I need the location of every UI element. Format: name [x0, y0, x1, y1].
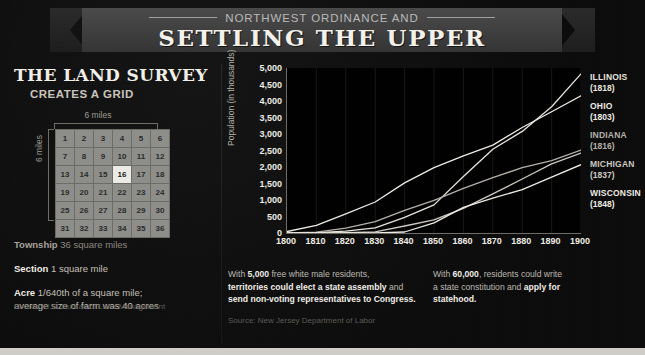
land-survey-panel: THE LAND SURVEY CREATES A GRID 6 miles 6…: [0, 58, 222, 355]
grid-cell-7: 7: [56, 148, 75, 166]
grid-cell-14: 14: [75, 166, 94, 184]
grid-row: 123456: [56, 130, 170, 148]
x-tick-1840: 1840: [394, 236, 414, 246]
grid-cell-34: 34: [113, 220, 132, 238]
grid-cell-21: 21: [94, 184, 113, 202]
grid-cell-1: 1: [56, 130, 75, 148]
chart-legend: ILLINOIS(1818)OHIO(1803)INDIANA(1816)MIC…: [590, 72, 645, 217]
x-tick-1900: 1900: [570, 236, 590, 246]
x-axis-ticks: 1800181018201830184018501860187018801890…: [286, 236, 582, 252]
x-tick-1830: 1830: [364, 236, 384, 246]
grid-cell-11: 11: [132, 148, 151, 166]
x-tick-1810: 1810: [305, 236, 325, 246]
legend-item-wisconsin[interactable]: WISCONSIN(1848): [590, 188, 645, 210]
grid-cell-33: 33: [94, 220, 113, 238]
banner-kicker: NORTHWEST ORDINANCE AND: [82, 12, 562, 24]
y-tick-1000: 1,000: [259, 195, 282, 205]
grid-cell-29: 29: [132, 202, 151, 220]
fact-section: Section 1 square mile: [14, 262, 214, 275]
x-tick-1870: 1870: [482, 236, 502, 246]
legend-year: (1803): [590, 112, 645, 123]
township-grid: 6 miles 6 miles 123456789101112131415161…: [40, 110, 170, 222]
note2-line2: a state constitution and: [433, 282, 524, 292]
note1-bold1: territories could elect a state assembly: [228, 282, 387, 292]
population-chart: Population (in thousands) 05001,0001,500…: [228, 60, 645, 260]
grid-cell-15: 15: [94, 166, 113, 184]
note-60000-residents: With 60,000, residents could write a sta…: [433, 268, 618, 306]
grid-cell-31: 31: [56, 220, 75, 238]
legend-year: (1837): [590, 170, 645, 181]
x-tick-1890: 1890: [541, 236, 561, 246]
legend-item-indiana[interactable]: INDIANA(1816): [590, 130, 645, 152]
legend-name: MICHIGAN: [590, 159, 645, 170]
y-axis-label: Population (in thousands): [226, 50, 236, 146]
x-tick-1850: 1850: [423, 236, 443, 246]
grid-row: 789101112: [56, 148, 170, 166]
legend-name: WISCONSIN: [590, 188, 645, 199]
legend-year: (1818): [590, 83, 645, 94]
grid-row: 313233343536: [56, 220, 170, 238]
grid-row: 252627282930: [56, 202, 170, 220]
y-tick-4000: 4,000: [259, 96, 282, 106]
fact-section-term: Section: [14, 263, 48, 274]
grid-cell-4: 4: [113, 130, 132, 148]
legend-name: ILLINOIS: [590, 72, 645, 83]
grid-cell-9: 9: [94, 148, 113, 166]
left-source-text: Source: U.S. Bureau of Land Management: [14, 302, 165, 311]
y-tick-4500: 4,500: [259, 80, 282, 90]
grid-side-measure-icon: [48, 129, 54, 221]
y-tick-2500: 2,500: [259, 146, 282, 156]
legend-item-ohio[interactable]: OHIO(1803): [590, 101, 645, 123]
x-tick-1860: 1860: [452, 236, 472, 246]
grid-cell-23: 23: [132, 184, 151, 202]
note1-mid: free white male residents,: [269, 269, 369, 279]
x-tick-1800: 1800: [276, 236, 296, 246]
grid-cell-22: 22: [113, 184, 132, 202]
fact-township: Township 36 square miles: [14, 238, 214, 251]
grid-top-label: 6 miles: [40, 110, 156, 120]
legend-year: (1848): [590, 199, 645, 210]
banner-kicker-text: NORTHWEST ORDINANCE AND: [225, 12, 418, 24]
fact-acre-def: 1/640th of a square mile;: [38, 287, 143, 298]
note1-number: 5,000: [248, 269, 270, 279]
grid-cell-18: 18: [151, 166, 170, 184]
ribbon-tail-right: [557, 8, 595, 52]
grid-side-label: 6 miles: [34, 135, 44, 162]
land-survey-subheading: CREATES A GRID: [30, 88, 134, 100]
grid-cell-16: 16: [113, 166, 132, 184]
grid-cell-10: 10: [113, 148, 132, 166]
legend-name: OHIO: [590, 101, 645, 112]
grid-cell-17: 17: [132, 166, 151, 184]
note2-bold: apply for: [524, 282, 560, 292]
chart-source-text: Source: New Jersey Department of Labor: [228, 316, 375, 325]
grid-cell-19: 19: [56, 184, 75, 202]
fact-township-term: Township: [14, 239, 58, 250]
series-lines: [287, 68, 581, 233]
grid-cell-3: 3: [94, 130, 113, 148]
grid-row: 192021222324: [56, 184, 170, 202]
note2-mid: , residents could write: [479, 269, 562, 279]
fact-township-def: 36 square miles: [60, 239, 127, 250]
grid-cell-6: 6: [151, 130, 170, 148]
legend-item-michigan[interactable]: MICHIGAN(1837): [590, 159, 645, 181]
y-tick-500: 500: [267, 212, 282, 222]
y-tick-1500: 1,500: [259, 179, 282, 189]
section-grid-table: 1234567891011121314151617181920212223242…: [55, 129, 170, 238]
plot-area: [286, 68, 581, 234]
x-tick-1820: 1820: [335, 236, 355, 246]
grid-cell-24: 24: [151, 184, 170, 202]
note2-line3: statehood.: [433, 294, 476, 304]
y-tick-2000: 2,000: [259, 162, 282, 172]
note-5000-residents: With 5,000 free white male residents, te…: [228, 268, 420, 306]
legend-year: (1816): [590, 141, 645, 152]
bottom-notes: With 5,000 free white male residents, te…: [228, 268, 645, 338]
land-survey-heading: THE LAND SURVEY: [14, 65, 208, 85]
legend-name: INDIANA: [590, 130, 645, 141]
grid-cell-30: 30: [151, 202, 170, 220]
infographic-canvas: NORTHWEST ORDINANCE AND SETTLING THE UPP…: [0, 0, 645, 355]
grid-cell-20: 20: [75, 184, 94, 202]
panel-divider: [221, 64, 222, 344]
fact-acre-term: Acre: [14, 287, 35, 298]
grid-cell-32: 32: [75, 220, 94, 238]
legend-item-illinois[interactable]: ILLINOIS(1818): [590, 72, 645, 94]
